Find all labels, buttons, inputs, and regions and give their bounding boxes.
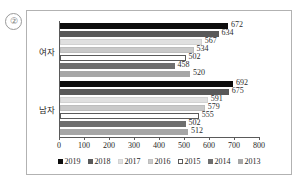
bar-2015-여자 — [60, 55, 186, 61]
x-tick — [134, 137, 135, 140]
bar-value-label: 458 — [178, 60, 190, 69]
x-tick-label: 600 — [203, 141, 215, 150]
bar-value-label: 555 — [202, 110, 214, 119]
x-tick — [84, 137, 85, 140]
chart-figure: ② 여자 남자 672634567534502458520 6926755915… — [0, 0, 304, 185]
chart-legend: 2019201820172016201520142013 — [27, 157, 291, 166]
x-tick-label: 0 — [57, 141, 61, 150]
bar-row: 520 — [59, 71, 259, 78]
bar-row: 675 — [59, 89, 259, 96]
legend-swatch-icon — [208, 159, 213, 164]
x-tick-label: 200 — [103, 141, 115, 150]
legend-swatch-icon — [178, 159, 183, 164]
category-label-female: 여자 — [39, 45, 55, 57]
x-tick — [259, 137, 260, 140]
item-number-badge: ② — [5, 13, 22, 30]
x-tick — [59, 137, 60, 140]
x-tick — [159, 137, 160, 140]
legend-item-2015[interactable]: 2015 — [178, 157, 201, 166]
bar-value-label: 520 — [193, 68, 205, 77]
bar-2018-남자 — [60, 89, 229, 95]
bar-row: 458 — [59, 63, 259, 70]
chart-frame: 여자 남자 672634567534502458520 692675591579… — [26, 10, 292, 175]
x-tick-label: 100 — [78, 141, 90, 150]
bar-value-label: 512 — [191, 126, 203, 135]
bar-row: 502 — [59, 55, 259, 62]
bar-row: 555 — [59, 113, 259, 120]
bar-value-label: 675 — [232, 86, 244, 95]
bar-row: 634 — [59, 31, 259, 38]
bar-2017-남자 — [60, 97, 208, 103]
x-tick-label: 800 — [253, 141, 265, 150]
x-tick — [184, 137, 185, 140]
legend-swatch-icon — [118, 159, 123, 164]
bar-2014-남자 — [60, 121, 186, 127]
bar-2017-여자 — [60, 39, 202, 45]
legend-label: 2018 — [95, 157, 111, 166]
legend-label: 2015 — [185, 157, 201, 166]
bar-2013-여자 — [60, 71, 190, 77]
bar-row: 502 — [59, 121, 259, 128]
legend-label: 2016 — [155, 157, 171, 166]
bar-row: 579 — [59, 105, 259, 112]
bar-2013-남자 — [60, 129, 188, 135]
legend-label: 2013 — [245, 157, 261, 166]
legend-item-2019[interactable]: 2019 — [58, 157, 81, 166]
legend-swatch-icon — [148, 159, 153, 164]
legend-item-2013[interactable]: 2013 — [238, 157, 261, 166]
x-tick — [209, 137, 210, 140]
bar-row: 567 — [59, 39, 259, 46]
legend-label: 2019 — [65, 157, 81, 166]
bar-row: 534 — [59, 47, 259, 54]
bar-group-female: 672634567534502458520 — [59, 23, 259, 79]
bar-2019-남자 — [60, 81, 233, 87]
x-tick-label: 300 — [128, 141, 140, 150]
legend-swatch-icon — [238, 159, 243, 164]
legend-swatch-icon — [88, 159, 93, 164]
bar-row: 512 — [59, 129, 259, 136]
bar-2018-여자 — [60, 31, 219, 37]
bar-2019-여자 — [60, 23, 228, 29]
legend-item-2014[interactable]: 2014 — [208, 157, 231, 166]
bar-value-label: 634 — [222, 28, 234, 37]
bar-2014-여자 — [60, 63, 175, 69]
bar-2016-여자 — [60, 47, 194, 53]
x-tick — [234, 137, 235, 140]
category-label-male: 남자 — [39, 103, 55, 115]
legend-item-2018[interactable]: 2018 — [88, 157, 111, 166]
plot-area: 여자 남자 672634567534502458520 692675591579… — [59, 21, 259, 137]
x-tick-label: 400 — [153, 141, 165, 150]
x-tick — [109, 137, 110, 140]
bar-group-male: 692675591579555502512 — [59, 81, 259, 137]
bar-2015-남자 — [60, 113, 199, 119]
bar-2016-남자 — [60, 105, 205, 111]
x-tick-label: 700 — [228, 141, 240, 150]
legend-label: 2017 — [125, 157, 141, 166]
legend-item-2017[interactable]: 2017 — [118, 157, 141, 166]
bar-row: 692 — [59, 81, 259, 88]
bar-row: 591 — [59, 97, 259, 104]
legend-label: 2014 — [215, 157, 231, 166]
legend-swatch-icon — [58, 159, 63, 164]
legend-item-2016[interactable]: 2016 — [148, 157, 171, 166]
x-tick-label: 500 — [178, 141, 190, 150]
bar-value-label: 502 — [189, 52, 201, 61]
